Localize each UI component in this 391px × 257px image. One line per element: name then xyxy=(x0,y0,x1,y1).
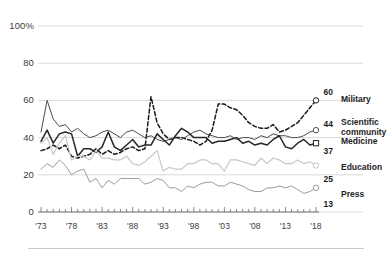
series-line-press xyxy=(41,160,316,193)
series-line-scientific xyxy=(41,100,316,141)
series-label-education: Education xyxy=(341,163,382,173)
x-axis-label-2018: '18 xyxy=(303,221,329,231)
endpoint-marker-press xyxy=(313,185,318,190)
x-axis-label-1973: '73 xyxy=(28,221,54,231)
endpoint-value-press: 13 xyxy=(311,200,333,209)
y-axis-label-0: 0 xyxy=(0,207,34,217)
chart-root: 100% 80 60 40 20 0 '73 '78 '83 '88 '93 '… xyxy=(0,0,391,257)
series-line-military xyxy=(41,97,316,158)
endpoint-marker-military xyxy=(313,98,318,103)
y-axis-label-40: 40 xyxy=(0,133,34,143)
x-axis-label-2003: '03 xyxy=(211,221,237,231)
endpoint-marker-education xyxy=(313,163,318,168)
y-axis-label-80: 80 xyxy=(0,58,34,68)
y-axis-label-60: 60 xyxy=(0,95,34,105)
series-label-medicine: Medicine xyxy=(341,137,377,147)
bottom-divider xyxy=(28,248,364,249)
series-line-education xyxy=(41,136,316,171)
y-axis-label-100: 100% xyxy=(0,21,34,31)
x-axis-label-1988: '88 xyxy=(120,221,146,231)
endpoint-value-military: 60 xyxy=(311,88,333,97)
series-label-military: Military xyxy=(341,95,371,105)
x-axis-label-1993: '93 xyxy=(150,221,176,231)
x-axis-label-2008: '08 xyxy=(242,221,268,231)
endpoint-marker-medicine xyxy=(313,141,318,146)
endpoint-value-education: 25 xyxy=(311,175,333,184)
series-label-scientific: Scientific community xyxy=(341,118,386,137)
endpoint-value-medicine: 37 xyxy=(311,147,333,156)
x-axis-label-1983: '83 xyxy=(89,221,115,231)
x-axis-label-1978: '78 xyxy=(59,221,85,231)
y-axis-label-20: 20 xyxy=(0,170,34,180)
x-axis-label-1998: '98 xyxy=(181,221,207,231)
series-label-press: Press xyxy=(341,190,364,200)
x-axis-label-2013: '13 xyxy=(272,221,298,231)
endpoint-value-scientific: 44 xyxy=(311,120,333,129)
